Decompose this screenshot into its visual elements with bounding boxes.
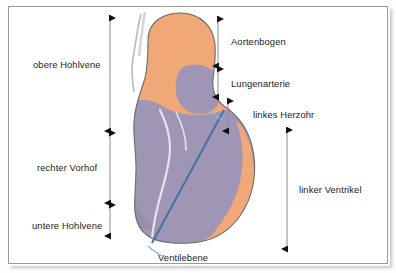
label-lungenarterie: Lungenarterie (231, 79, 290, 88)
label-untere-hohlvene: untere Hohlvene (32, 221, 102, 230)
label-linker-ventrikel: linker Ventrikel (299, 185, 362, 194)
label-aortenbogen: Aortenbogen (231, 37, 286, 46)
label-rechter-vorhof: rechter Vorhof (37, 163, 97, 172)
label-ventilebene: Ventilebene (158, 253, 208, 262)
label-linkes-herzohr: linkes Herzohr (253, 110, 314, 119)
measurement-arrows (0, 0, 396, 273)
label-obere-hohlvene: obere Hohlvene (33, 60, 101, 69)
figure-canvas: obere Hohlvene rechter Vorhof untere Hoh… (0, 0, 396, 273)
